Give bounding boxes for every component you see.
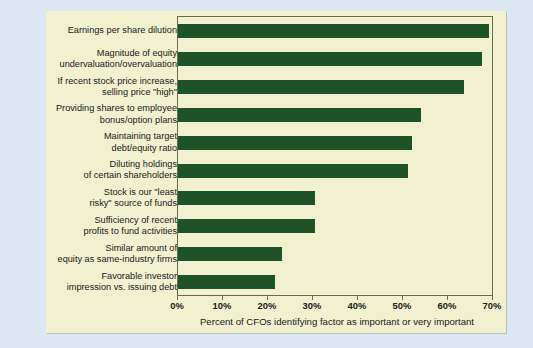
bar bbox=[178, 164, 408, 178]
category-labels: Earnings per share dilutionMagnitude of … bbox=[46, 17, 177, 296]
bar-row bbox=[178, 73, 493, 101]
x-axis-ticks: 0%10%20%30%40%50%60%70% bbox=[177, 296, 494, 318]
category-label: Magnitude of equityundervaluation/overva… bbox=[49, 48, 177, 70]
bar bbox=[178, 136, 412, 150]
category-label-line: bonus/option plans bbox=[49, 115, 177, 126]
category-label-line: Similar amount of bbox=[49, 243, 177, 254]
category-label-line: equity as same-industry firms bbox=[49, 254, 177, 265]
category-label-line: Favorable investor bbox=[49, 271, 177, 282]
category-label: Maintaining targetdebt/equity ratio bbox=[49, 131, 177, 153]
category-label-line: Stock is our "least bbox=[49, 187, 177, 198]
bars-layer bbox=[178, 17, 493, 296]
category-label: Similar amount ofequity as same-industry… bbox=[49, 243, 177, 265]
bar bbox=[178, 219, 315, 233]
category-label-line: selling price "high" bbox=[49, 87, 177, 98]
x-axis-label: Percent of CFOs identifying factor as im… bbox=[177, 316, 497, 327]
bar-row bbox=[178, 268, 493, 296]
bar bbox=[178, 52, 482, 66]
tick-label: 20% bbox=[258, 300, 277, 311]
bar bbox=[178, 24, 489, 38]
tick-label: 70% bbox=[483, 300, 502, 311]
bar bbox=[178, 80, 464, 94]
bar-row bbox=[178, 212, 493, 240]
category-label: Favorable investorimpression vs. issuing… bbox=[49, 271, 177, 293]
category-label: Stock is our "leastrisky" source of fund… bbox=[49, 187, 177, 209]
bar-row bbox=[178, 101, 493, 129]
category-label: Diluting holdingsof certain shareholders bbox=[49, 159, 177, 181]
bar-row bbox=[178, 157, 493, 185]
category-label-line: Sufficiency of recent bbox=[49, 215, 177, 226]
category-label-line: impression vs. issuing debt bbox=[49, 282, 177, 293]
category-label-line: If recent stock price increase, bbox=[49, 76, 177, 87]
bar bbox=[178, 108, 421, 122]
category-label: Earnings per share dilution bbox=[49, 25, 177, 36]
tick-label: 40% bbox=[348, 300, 367, 311]
category-label-line: Maintaining target bbox=[49, 131, 177, 142]
category-label-line: Diluting holdings bbox=[49, 159, 177, 170]
tick-label: 50% bbox=[393, 300, 412, 311]
bar-row bbox=[178, 45, 493, 73]
tick-label: 60% bbox=[438, 300, 457, 311]
category-label-line: debt/equity ratio bbox=[49, 143, 177, 154]
category-label: Providing shares to employeebonus/option… bbox=[49, 103, 177, 125]
category-label-line: risky" source of funds bbox=[49, 198, 177, 209]
category-label: If recent stock price increase,selling p… bbox=[49, 76, 177, 98]
bar-row bbox=[178, 240, 493, 268]
bar bbox=[178, 191, 315, 205]
tick-label: 10% bbox=[213, 300, 232, 311]
tick-label: 0% bbox=[170, 300, 184, 311]
bar-row bbox=[178, 129, 493, 157]
category-label-line: profits to fund activities bbox=[49, 226, 177, 237]
category-label-line: Earnings per share dilution bbox=[49, 25, 177, 36]
category-label: Sufficiency of recentprofits to fund act… bbox=[49, 215, 177, 237]
chart-panel: Earnings per share dilutionMagnitude of … bbox=[46, 11, 506, 333]
category-label-line: Providing shares to employee bbox=[49, 103, 177, 114]
category-label-line: Magnitude of equity bbox=[49, 48, 177, 59]
tick-label: 30% bbox=[303, 300, 322, 311]
category-label-line: of certain shareholders bbox=[49, 170, 177, 181]
bar bbox=[178, 275, 275, 289]
bar-row bbox=[178, 184, 493, 212]
bar bbox=[178, 247, 282, 261]
category-label-line: undervaluation/overvaluation bbox=[49, 59, 177, 70]
bar-row bbox=[178, 17, 493, 45]
